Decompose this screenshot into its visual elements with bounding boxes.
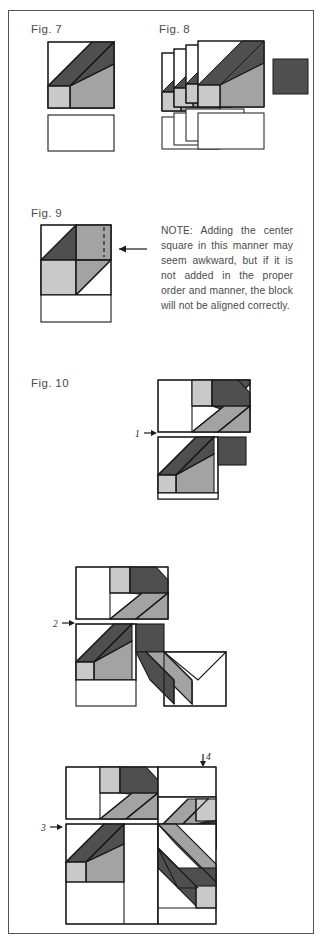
fig-8-diagram xyxy=(161,39,309,157)
fig-8-label: Fig. 8 xyxy=(159,23,190,35)
fig-7-label: Fig. 7 xyxy=(31,23,62,35)
step-3-number: 3 xyxy=(41,823,46,833)
step-3-arrow-icon xyxy=(49,820,65,834)
fig-10-stage-2 xyxy=(75,566,265,716)
note-text: NOTE: Adding the center square in this m… xyxy=(161,223,293,314)
fig-10-stage-1 xyxy=(157,379,267,501)
fig-9-label: Fig. 9 xyxy=(31,207,62,219)
fig-7-diagram xyxy=(47,41,125,153)
page-border: Fig. 7 Fig. 8 xyxy=(8,10,314,934)
step-2-number: 2 xyxy=(53,619,58,629)
fig-9-diagram xyxy=(39,223,159,325)
pointer-arrow-icon xyxy=(119,246,147,253)
step-1-number: 1 xyxy=(135,429,140,439)
fig-10-label: Fig. 10 xyxy=(31,377,69,389)
fig-10-stage-3 xyxy=(65,766,271,930)
